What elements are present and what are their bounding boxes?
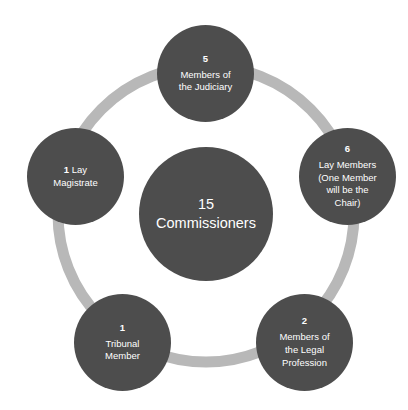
node-lay-members-count: 6 <box>345 143 350 156</box>
node-judiciary-label-line2: the Judiciary <box>179 81 232 94</box>
hub-count: 15 <box>198 195 214 214</box>
node-lay-members: 6 Lay Members (One Member will be the Ch… <box>299 128 396 225</box>
node-legal-profession-count: 2 <box>302 315 307 328</box>
node-legal-profession-label-line2: the Legal <box>285 344 324 357</box>
node-lay-magistrate-label-line1: Lay <box>72 164 87 175</box>
node-legal-profession-label-line3: Profession <box>282 357 327 370</box>
node-judiciary-count: 5 <box>203 53 208 66</box>
hub-node-commissioners: 15 Commissioners <box>139 147 273 281</box>
node-legal-profession: 2 Members of the Legal Profession <box>256 294 353 391</box>
node-tribunal-member-label-line2: Member <box>105 350 140 363</box>
node-judiciary-label-line1: Members of <box>180 69 230 82</box>
node-tribunal-member: 1 Tribunal Member <box>74 294 171 391</box>
node-judiciary: 5 Members of the Judiciary <box>157 25 254 122</box>
node-lay-magistrate: 1 Lay Magistrate <box>27 128 124 225</box>
node-lay-members-label-line3: will be the <box>326 184 368 197</box>
node-lay-members-label-line1: Lay Members <box>319 159 377 172</box>
hub-label: Commissioners <box>156 214 256 233</box>
node-tribunal-member-label-line1: Tribunal <box>106 338 140 351</box>
node-lay-magistrate-count: 1 <box>64 164 69 175</box>
commissioners-radial-diagram: 15 Commissioners 5 Members of the Judici… <box>0 0 408 410</box>
node-lay-members-label-line4: Chair) <box>335 197 361 210</box>
node-tribunal-member-count: 1 <box>120 322 125 335</box>
node-lay-magistrate-label-line2: Magistrate <box>53 177 97 190</box>
node-legal-profession-label-line1: Members of <box>279 331 329 344</box>
node-lay-magistrate-line1: 1 Lay <box>64 164 87 177</box>
node-lay-members-label-line2: (One Member <box>318 172 377 185</box>
